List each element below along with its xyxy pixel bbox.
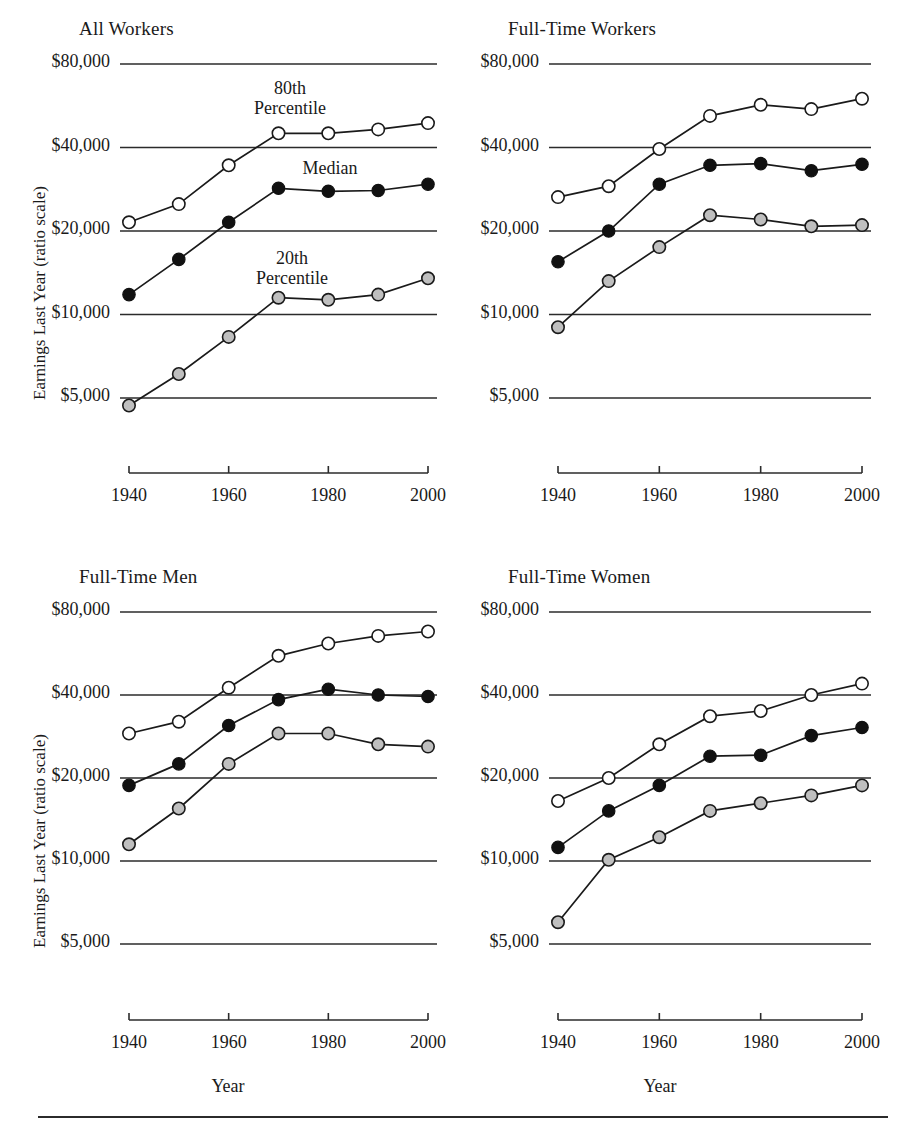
- marker-full-time-women-p80-1980: [755, 705, 767, 717]
- marker-full-time-men-p20-1990: [372, 738, 384, 750]
- ytick-label-full-time-workers-20000: $20,000: [431, 218, 539, 239]
- marker-full-time-women-p20-1990: [805, 789, 817, 801]
- xtick-label-full-time-men-1960: 1960: [189, 1032, 269, 1053]
- ytick-label-full-time-women-80000: $80,000: [431, 599, 539, 620]
- marker-full-time-men-p20-1970: [272, 727, 284, 739]
- marker-full-time-women-median-1940: [552, 841, 564, 853]
- marker-all-workers-p80-1950: [173, 198, 185, 210]
- xtick-label-full-time-workers-2000: 2000: [822, 485, 899, 506]
- ytick-label-all-workers-80000: $80,000: [2, 51, 110, 72]
- marker-all-workers-median-1990: [372, 184, 384, 196]
- marker-all-workers-p20-1980: [322, 294, 334, 306]
- marker-full-time-women-p20-2000: [856, 779, 868, 791]
- marker-all-workers-p80-1940: [123, 216, 135, 228]
- ytick-label-all-workers-10000: $10,000: [2, 302, 110, 323]
- series-line-full-time-men-p20: [129, 734, 428, 845]
- marker-full-time-workers-median-1950: [603, 225, 615, 237]
- marker-all-workers-median-1940: [123, 288, 135, 300]
- xtick-label-full-time-men-2000: 2000: [388, 1032, 468, 1053]
- marker-full-time-men-median-1940: [123, 779, 135, 791]
- marker-full-time-women-p20-1960: [653, 831, 665, 843]
- marker-all-workers-p20-1960: [223, 331, 235, 343]
- series-line-full-time-women-p80: [558, 684, 862, 801]
- ytick-label-all-workers-20000: $20,000: [2, 218, 110, 239]
- marker-full-time-men-median-1980: [322, 683, 334, 695]
- marker-full-time-men-p80-1950: [173, 716, 185, 728]
- marker-all-workers-p20-1940: [123, 399, 135, 411]
- marker-all-workers-p20-1950: [173, 368, 185, 380]
- xtick-label-all-workers-1980: 1980: [288, 485, 368, 506]
- marker-full-time-workers-p80-1940: [552, 191, 564, 203]
- marker-full-time-workers-p20-1990: [805, 220, 817, 232]
- marker-all-workers-p80-1960: [223, 159, 235, 171]
- marker-all-workers-p80-1990: [372, 123, 384, 135]
- earnings-percentiles-figure: All Workers Earnings Last Year (ratio sc…: [0, 0, 899, 1132]
- marker-full-time-workers-median-1940: [552, 256, 564, 268]
- marker-full-time-women-p20-1940: [552, 916, 564, 928]
- marker-full-time-men-p20-1950: [173, 802, 185, 814]
- marker-full-time-men-p80-1960: [223, 682, 235, 694]
- marker-full-time-men-p80-1970: [272, 650, 284, 662]
- marker-full-time-men-median-1960: [223, 719, 235, 731]
- marker-full-time-workers-p80-1960: [653, 143, 665, 155]
- ytick-label-full-time-men-10000: $10,000: [2, 848, 110, 869]
- marker-all-workers-median-1980: [322, 185, 334, 197]
- marker-full-time-men-p20-1960: [223, 758, 235, 770]
- marker-full-time-workers-p80-2000: [856, 93, 868, 105]
- marker-full-time-workers-p20-1940: [552, 321, 564, 333]
- marker-all-workers-median-1970: [272, 182, 284, 194]
- ytick-label-full-time-workers-10000: $10,000: [431, 302, 539, 323]
- ytick-label-full-time-men-40000: $40,000: [2, 682, 110, 703]
- marker-all-workers-median-1960: [223, 216, 235, 228]
- marker-full-time-workers-p80-1980: [755, 99, 767, 111]
- ytick-label-full-time-women-10000: $10,000: [431, 848, 539, 869]
- marker-full-time-women-median-1990: [805, 729, 817, 741]
- marker-full-time-workers-median-1980: [755, 157, 767, 169]
- ytick-label-full-time-workers-5000: $5,000: [431, 385, 539, 406]
- marker-full-time-women-p80-1990: [805, 689, 817, 701]
- marker-all-workers-p20-2000: [422, 272, 434, 284]
- marker-all-workers-p80-2000: [422, 117, 434, 129]
- ytick-label-all-workers-5000: $5,000: [2, 385, 110, 406]
- xtick-label-full-time-men-1940: 1940: [89, 1032, 169, 1053]
- marker-full-time-workers-p80-1990: [805, 103, 817, 115]
- xtick-label-full-time-workers-1960: 1960: [619, 485, 699, 506]
- ytick-label-all-workers-40000: $40,000: [2, 135, 110, 156]
- marker-full-time-men-p80-1940: [123, 727, 135, 739]
- marker-full-time-men-median-1990: [372, 689, 384, 701]
- marker-full-time-workers-p20-1950: [603, 275, 615, 287]
- marker-full-time-workers-median-1970: [704, 159, 716, 171]
- marker-full-time-workers-p80-1970: [704, 110, 716, 122]
- ytick-label-full-time-women-40000: $40,000: [431, 682, 539, 703]
- ytick-label-full-time-women-5000: $5,000: [431, 931, 539, 952]
- marker-full-time-men-median-1950: [173, 758, 185, 770]
- marker-full-time-women-p20-1950: [603, 854, 615, 866]
- marker-full-time-men-p80-1980: [322, 637, 334, 649]
- marker-full-time-workers-p20-1960: [653, 241, 665, 253]
- marker-all-workers-median-1950: [173, 253, 185, 265]
- plot-canvas: [0, 0, 899, 1132]
- ytick-label-full-time-men-5000: $5,000: [2, 931, 110, 952]
- series-annotation-p80: 80thPercentile: [220, 78, 360, 118]
- marker-full-time-workers-p20-1980: [755, 213, 767, 225]
- ytick-label-full-time-workers-80000: $80,000: [431, 51, 539, 72]
- marker-full-time-men-p80-2000: [422, 625, 434, 637]
- marker-full-time-women-median-1950: [603, 805, 615, 817]
- xtick-label-full-time-workers-1980: 1980: [721, 485, 801, 506]
- marker-full-time-women-p80-1940: [552, 795, 564, 807]
- marker-full-time-women-p80-1970: [704, 710, 716, 722]
- marker-full-time-men-p20-1980: [322, 727, 334, 739]
- marker-full-time-workers-median-1960: [653, 178, 665, 190]
- marker-full-time-women-p20-1980: [755, 797, 767, 809]
- marker-full-time-women-p20-1970: [704, 805, 716, 817]
- marker-full-time-workers-p80-1950: [603, 180, 615, 192]
- ytick-label-full-time-women-20000: $20,000: [431, 765, 539, 786]
- marker-full-time-women-p80-1960: [653, 738, 665, 750]
- marker-all-workers-p80-1970: [272, 127, 284, 139]
- marker-full-time-workers-p20-2000: [856, 219, 868, 231]
- marker-full-time-men-p80-1990: [372, 630, 384, 642]
- marker-full-time-men-p20-1940: [123, 838, 135, 850]
- xtick-label-full-time-women-2000: 2000: [822, 1032, 899, 1053]
- marker-full-time-workers-median-1990: [805, 165, 817, 177]
- marker-all-workers-median-2000: [422, 178, 434, 190]
